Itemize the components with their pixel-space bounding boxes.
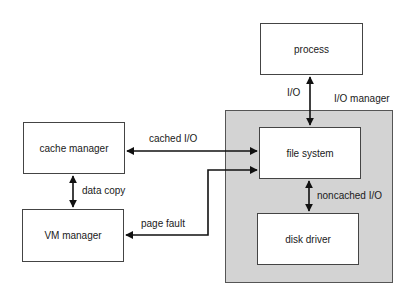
data-copy-label: data copy: [82, 185, 125, 196]
cached-io-label: cached I/O: [149, 133, 197, 144]
connector-arrows: [0, 0, 414, 292]
io-edge-label: I/O: [287, 87, 300, 98]
io-manager-label: I/O manager: [334, 93, 390, 104]
page-fault-label: page fault: [141, 218, 185, 229]
noncached-io-label: noncached I/O: [317, 190, 382, 201]
